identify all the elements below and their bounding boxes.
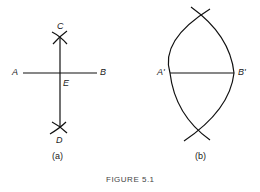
panel-a-drawing — [23, 31, 97, 134]
point-c-label: C — [57, 22, 64, 31]
panel-a-label: (a) — [52, 152, 63, 161]
arc-left — [168, 9, 210, 140]
point-b-label: B — [100, 68, 106, 77]
arc-d-right — [50, 122, 66, 134]
point-e-label: E — [63, 79, 69, 88]
figure-caption: FIGURE 5.1 — [106, 176, 155, 184]
panel-b-label: (b) — [195, 152, 206, 161]
arc-right — [184, 7, 234, 141]
point-a-prime-label: A' — [157, 68, 165, 77]
point-d-label: D — [56, 136, 63, 145]
point-a-label: A — [12, 68, 18, 77]
figure-canvas — [0, 0, 260, 192]
point-b-prime-label: B' — [238, 68, 246, 77]
panel-b-drawing — [168, 7, 234, 141]
